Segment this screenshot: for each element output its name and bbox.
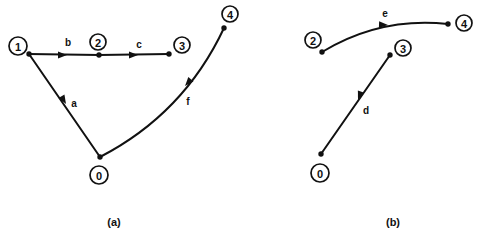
edge-path: [321, 55, 390, 154]
edge-label-f: f: [186, 96, 190, 107]
node-event-dot: [166, 51, 171, 56]
panel-b: ed2430(b): [305, 8, 472, 229]
node-label-3: 3: [400, 43, 406, 55]
edge-c-2-to-3: c: [99, 39, 169, 59]
edge-f-4-to-0: f: [100, 28, 224, 157]
arrowhead-icon: [58, 52, 67, 59]
edge-label-a: a: [71, 98, 77, 109]
node-event-dot: [221, 25, 226, 30]
node-event-dot: [318, 151, 323, 156]
edge-path: [100, 28, 224, 157]
panel-a: bcaf12340(a): [9, 6, 238, 228]
node-0: 0: [90, 154, 108, 184]
panel-caption-b: (b): [386, 216, 400, 228]
edge-path: [322, 23, 448, 52]
edge-d-3-to-0: d: [321, 55, 390, 154]
node-event-dot: [97, 154, 102, 159]
node-label-1: 1: [15, 41, 21, 53]
node-4: 4: [445, 15, 472, 31]
node-label-0: 0: [96, 170, 102, 182]
edge-label-b: b: [65, 37, 71, 48]
node-label-2: 2: [95, 37, 101, 49]
arrowhead-icon: [129, 52, 138, 59]
node-3: 3: [166, 37, 190, 57]
node-2: 2: [305, 32, 325, 55]
edge-label-e: e: [382, 8, 388, 19]
node-event-dot: [445, 21, 450, 26]
node-event-dot: [319, 49, 324, 54]
activity-network-diagram: bcaf12340(a)ed2430(b): [0, 0, 477, 239]
figure-container: bcaf12340(a)ed2430(b): [0, 0, 477, 239]
edge-path: [29, 54, 100, 157]
node-event-dot: [26, 51, 31, 56]
node-0: 0: [311, 151, 329, 182]
node-1: 1: [9, 37, 32, 57]
node-event-dot: [96, 52, 101, 57]
node-label-0: 0: [317, 168, 323, 180]
edge-a-1-to-0: a: [29, 54, 100, 157]
node-label-3: 3: [179, 40, 185, 52]
node-label-4: 4: [227, 9, 234, 21]
node-3: 3: [387, 40, 411, 58]
panel-caption-a: (a): [107, 216, 121, 228]
node-label-4: 4: [461, 18, 468, 30]
edge-label-d: d: [363, 105, 369, 116]
edge-b-1-to-2: b: [29, 37, 99, 59]
node-4: 4: [221, 6, 238, 31]
edge-label-c: c: [136, 39, 142, 50]
node-label-2: 2: [310, 35, 316, 47]
edge-e-2-to-4: e: [322, 8, 448, 53]
node-event-dot: [387, 52, 392, 57]
